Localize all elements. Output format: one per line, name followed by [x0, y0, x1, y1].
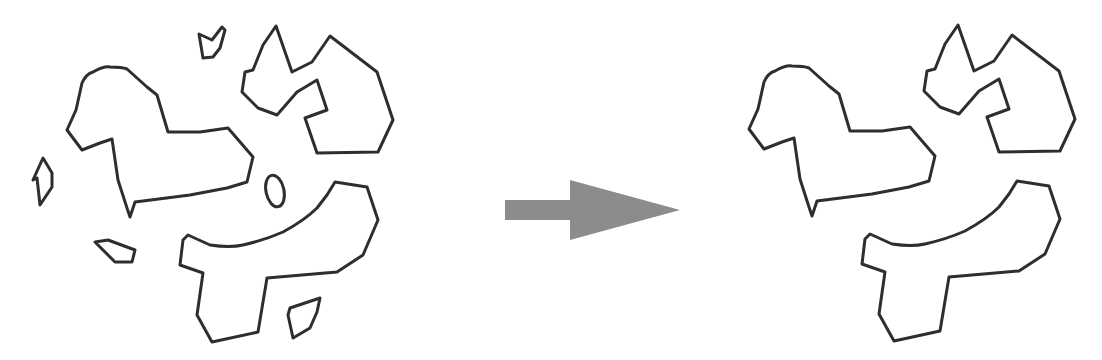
oval-shape [263, 173, 287, 208]
right-arrow-icon [505, 180, 680, 240]
crown-shape [242, 26, 393, 153]
left-shard [33, 158, 52, 205]
bottom-shard [288, 298, 320, 338]
after-panel [749, 25, 1075, 341]
top-shard [199, 27, 225, 58]
crown-shape [924, 25, 1075, 152]
hook-shape [862, 181, 1060, 341]
lower-left-shard [95, 240, 135, 262]
heart-shape [67, 67, 253, 217]
heart-shape [749, 66, 935, 216]
before-panel [33, 26, 393, 342]
before-after-diagram [0, 0, 1102, 360]
